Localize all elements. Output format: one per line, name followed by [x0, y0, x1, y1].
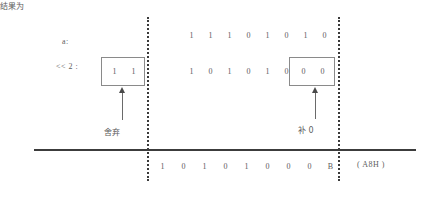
hex-value-label: ( A8H ): [357, 160, 385, 169]
operand-label: a:: [62, 37, 69, 46]
pad-zero-annotation: 补 0: [298, 124, 314, 135]
bit: 0: [257, 161, 278, 173]
original-bits-row: 1 1 1 0 1 0 1 0: [182, 30, 334, 42]
padded-bits-box: 0 0: [289, 57, 335, 86]
pad-zero-arrow-icon: [315, 92, 316, 119]
bit: 0: [278, 161, 299, 173]
bit: 0: [215, 161, 236, 173]
bit: 0: [239, 66, 258, 78]
dotted-separator-right: [338, 17, 342, 181]
result-label: 结果为: [0, 0, 432, 11]
discarded-bits-box: 1 1: [101, 57, 145, 86]
discard-annotation: 舍弃: [104, 126, 120, 137]
bit: 0: [315, 30, 334, 42]
bit: 1: [194, 161, 215, 173]
binary-suffix: B: [320, 161, 341, 173]
result-bits-row: 1 0 1 0 1 0 0 0 B: [152, 161, 341, 173]
bit: 1: [258, 66, 277, 78]
dotted-separator-left: [147, 17, 151, 181]
bit: 1: [182, 30, 201, 42]
bit: 0: [277, 30, 296, 42]
shifted-bits-row: 1 0 1 0 1 0: [182, 66, 296, 78]
bit: 0: [201, 66, 220, 78]
bit: 0: [173, 161, 194, 173]
bit: 1: [182, 66, 201, 78]
padded-bit: 0: [294, 67, 313, 76]
discard-arrow-icon: [122, 92, 123, 120]
bit: 1: [152, 161, 173, 173]
bit: 1: [296, 30, 315, 42]
discarded-bit: 1: [105, 67, 124, 76]
bit: 1: [201, 30, 220, 42]
bit: 1: [220, 66, 239, 78]
bit: 1: [236, 161, 257, 173]
shift-operation-label: << 2 :: [56, 62, 78, 71]
discarded-bit: 1: [124, 67, 143, 76]
bit: 1: [258, 30, 277, 42]
result-divider: [34, 149, 416, 151]
bit: 0: [299, 161, 320, 173]
padded-bit: 0: [313, 67, 332, 76]
shift-diagram: a: << 2 : 1 1 1 1 1 0 1 0 1 0 1 0 1 0 1 …: [0, 0, 432, 197]
bit: 1: [220, 30, 239, 42]
bit: 0: [239, 30, 258, 42]
